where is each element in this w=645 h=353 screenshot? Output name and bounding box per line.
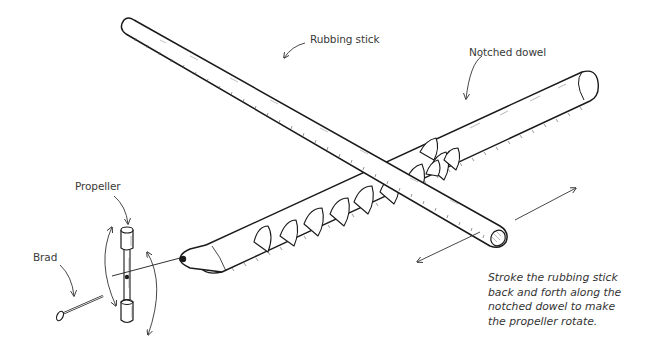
- label-rubbing-stick: Rubbing stick: [310, 33, 379, 45]
- caption-line: Stroke the rubbing stick: [488, 271, 645, 286]
- caption-line: notched dowel to make: [488, 300, 645, 315]
- instruction-caption: Stroke the rubbing stick back and forth …: [488, 271, 645, 329]
- label-notched-dowel: Notched dowel: [469, 46, 546, 58]
- caption-line: the propeller rotate.: [488, 315, 645, 330]
- propeller: [112, 227, 180, 323]
- caption-line: back and forth along the: [488, 286, 645, 301]
- brad: [55, 296, 103, 322]
- label-propeller: Propeller: [75, 180, 121, 192]
- label-brad: Brad: [33, 251, 57, 263]
